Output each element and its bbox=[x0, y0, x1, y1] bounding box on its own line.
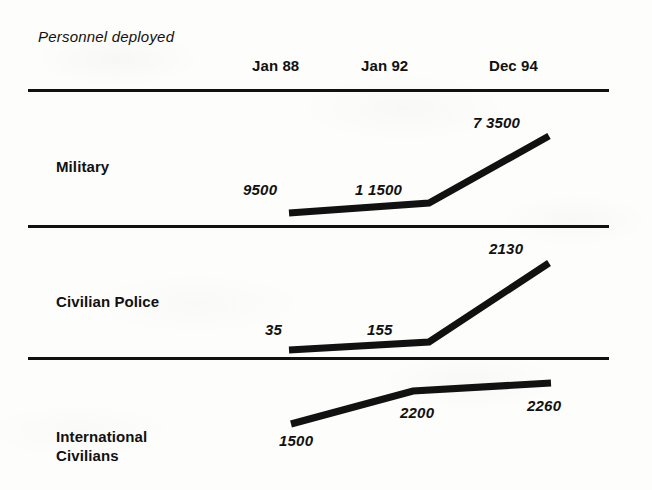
column-header-dec-94: Dec 94 bbox=[489, 57, 538, 74]
value-label-international-civilians-jan-88: 1500 bbox=[279, 432, 313, 449]
column-header-jan-88: Jan 88 bbox=[252, 57, 299, 74]
value-label-military-jan-88: 9500 bbox=[243, 181, 277, 198]
panel-divider-top bbox=[28, 89, 609, 92]
panel-divider-middle bbox=[28, 225, 609, 228]
series-layer bbox=[0, 0, 652, 490]
row-label-international-civilians: International Civilians bbox=[56, 427, 147, 465]
row-label-civilian-police: Civilian Police bbox=[56, 292, 159, 311]
column-header-jan-92: Jan 92 bbox=[361, 57, 408, 74]
personnel-deployed-figure: Personnel deployed Jan 88 Jan 92 Dec 94 … bbox=[0, 0, 652, 490]
value-label-international-civilians-jan-92: 2200 bbox=[400, 404, 434, 421]
series-line-civilian-police bbox=[289, 263, 549, 350]
unit-caption: Personnel deployed bbox=[38, 28, 174, 45]
row-label-military: Military bbox=[56, 157, 109, 176]
value-label-military-jan-92: 1 1500 bbox=[355, 181, 402, 198]
panel-divider-bottom bbox=[28, 357, 609, 360]
value-label-civilian-police-jan-88: 35 bbox=[265, 321, 282, 338]
value-label-military-dec-94: 7 3500 bbox=[473, 114, 520, 131]
value-label-civilian-police-dec-94: 2130 bbox=[489, 240, 523, 257]
series-line-military bbox=[289, 136, 549, 213]
value-label-civilian-police-jan-92: 155 bbox=[367, 321, 393, 338]
paper-texture bbox=[0, 0, 652, 490]
value-label-international-civilians-dec-94: 2260 bbox=[527, 397, 561, 414]
